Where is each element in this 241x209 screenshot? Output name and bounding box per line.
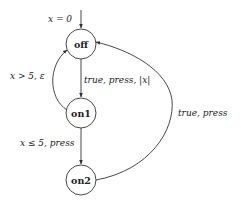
edge-label-on1-off: x > 5, ε <box>10 72 45 81</box>
state-diagram: off on1 on2 x = 0 true, press, |x| x > 5… <box>0 0 241 209</box>
edge-label-on2-off: true, press <box>178 109 227 118</box>
svg-text:on1: on1 <box>71 108 91 119</box>
node-on2: on2 <box>66 165 96 195</box>
edge-label-off-on1: true, press, |x| <box>84 76 150 85</box>
edge-label-on1-on2: x ≤ 5, press <box>20 139 74 148</box>
diagram-graphics: off on1 on2 <box>0 0 241 209</box>
node-on1: on1 <box>66 98 96 128</box>
edge-on1-off <box>53 50 67 110</box>
node-off: off <box>66 29 96 59</box>
initial-label: x = 0 <box>48 15 72 24</box>
edge-on2-off <box>96 42 172 180</box>
svg-text:off: off <box>74 39 89 50</box>
svg-text:on2: on2 <box>71 175 91 186</box>
